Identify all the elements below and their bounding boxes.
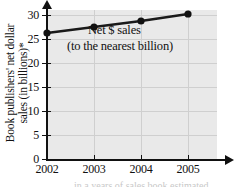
- cropped-caption-fragment: in a years of sales book estimated: [74, 180, 238, 187]
- chart-figure: 0 5 10 15 20 25 30 2002 2003 2004 2005 B…: [0, 0, 238, 187]
- annotation-line-1: Net $ sales: [88, 23, 141, 37]
- data-point-2005: [184, 10, 191, 17]
- annotation-line-2: (to the nearest billion): [67, 38, 173, 54]
- series-annotation: Net $ sales (to the nearest billion): [88, 22, 173, 54]
- data-point-2002: [43, 29, 50, 36]
